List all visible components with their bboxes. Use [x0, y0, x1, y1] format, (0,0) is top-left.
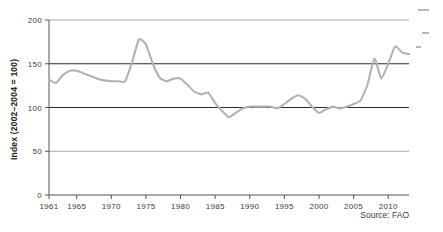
food-price-index-line-chart: 050100150200 196119651970197519801985199… — [0, 0, 443, 232]
x-tick-label-1965: 1965 — [67, 202, 86, 211]
x-tick-label-2000: 2000 — [310, 202, 329, 211]
x-tick-label-1990: 1990 — [240, 202, 259, 211]
x-tick-label-1975: 1975 — [136, 202, 155, 211]
scan-artifact-2 — [422, 32, 429, 34]
scan-artifact-1 — [418, 9, 429, 11]
x-tick-label-1961: 1961 — [40, 202, 59, 211]
y-tick-label-0: 0 — [37, 191, 42, 200]
y-tick-label-50: 50 — [33, 147, 43, 156]
x-axis-tick-labels: 1961196519701975198019851990199520002005… — [40, 202, 398, 211]
x-tick-label-1985: 1985 — [206, 202, 225, 211]
y-tick-label-150: 150 — [28, 60, 42, 69]
x-tick-label-1980: 1980 — [171, 202, 190, 211]
x-axis-tick-marks — [49, 195, 388, 199]
scan-artifact-3 — [416, 46, 421, 48]
y-tick-label-100: 100 — [28, 104, 42, 113]
x-tick-label-1970: 1970 — [102, 202, 121, 211]
source-note: Source: FAO — [360, 210, 409, 220]
y-tick-label-200: 200 — [28, 16, 42, 25]
y-axis-tick-labels: 050100150200 — [28, 16, 43, 200]
y-axis-title: Index (2002–2004 = 100) — [9, 59, 19, 160]
chart-figure: 050100150200 196119651970197519801985199… — [0, 0, 443, 232]
y-axis-tick-marks — [45, 20, 49, 195]
x-tick-label-1995: 1995 — [275, 202, 294, 211]
